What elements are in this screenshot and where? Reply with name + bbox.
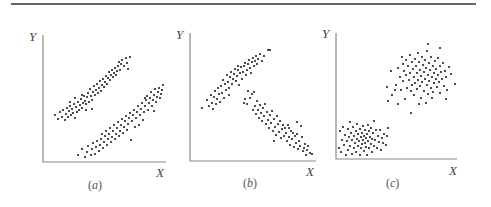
data-point: [94, 153, 96, 155]
data-point: [411, 61, 413, 63]
data-point: [114, 138, 116, 140]
data-point: [236, 75, 238, 77]
data-point: [375, 129, 377, 131]
data-point: [364, 142, 366, 144]
data-point: [343, 144, 345, 146]
data-point: [445, 76, 447, 78]
data-point: [135, 117, 137, 119]
data-point: [254, 60, 256, 62]
data-point: [352, 126, 354, 128]
data-point: [229, 76, 231, 78]
axes-c: [336, 33, 457, 159]
data-point: [374, 139, 376, 141]
data-point: [125, 115, 127, 117]
data-point: [422, 64, 424, 66]
data-point: [87, 145, 89, 147]
data-point: [108, 133, 110, 135]
data-point: [118, 135, 120, 137]
data-point: [75, 106, 77, 108]
data-point: [371, 138, 373, 140]
data-point: [365, 146, 367, 148]
data-point: [116, 70, 118, 72]
data-point: [64, 119, 66, 121]
data-point: [365, 137, 367, 139]
data-point: [228, 87, 230, 89]
data-point: [426, 84, 428, 86]
data-point: [282, 124, 284, 126]
data-point: [345, 154, 347, 156]
data-point: [155, 101, 157, 103]
data-point: [242, 71, 244, 73]
data-point: [227, 81, 229, 83]
data-point: [425, 102, 427, 104]
scatter-points-b: [201, 49, 313, 156]
data-point: [395, 84, 397, 86]
data-point: [98, 150, 100, 152]
data-point: [362, 125, 364, 127]
data-point: [121, 118, 123, 120]
data-point: [366, 133, 368, 135]
data-point: [110, 141, 112, 143]
data-point: [277, 123, 279, 125]
data-point: [296, 133, 298, 135]
data-point: [103, 86, 105, 88]
data-point: [371, 151, 373, 153]
data-point: [413, 94, 415, 96]
data-point: [115, 133, 117, 135]
data-point: [418, 103, 420, 105]
scatter-points-c: [338, 43, 456, 156]
data-point: [255, 55, 257, 57]
data-point: [106, 83, 108, 85]
data-point: [450, 73, 452, 75]
data-point: [288, 127, 290, 129]
data-point: [112, 130, 114, 132]
data-point: [152, 99, 154, 101]
data-point: [386, 135, 388, 137]
data-point: [61, 116, 63, 118]
data-point: [454, 83, 456, 85]
data-point: [67, 116, 69, 118]
data-point: [433, 72, 435, 74]
data-point: [102, 78, 104, 80]
data-point: [161, 89, 163, 91]
data-point: [73, 103, 75, 105]
data-point: [438, 81, 440, 83]
data-point: [124, 120, 126, 122]
data-point: [256, 100, 258, 102]
data-point: [249, 67, 251, 69]
data-point: [92, 91, 94, 93]
data-point: [353, 135, 355, 137]
data-point: [360, 147, 362, 149]
data-point: [153, 110, 155, 112]
data-point: [430, 56, 432, 58]
data-point: [361, 143, 363, 145]
data-point: [93, 85, 95, 87]
data-point: [275, 134, 277, 136]
data-point: [292, 132, 294, 134]
data-point: [357, 145, 359, 147]
data-point: [265, 123, 267, 125]
data-point: [432, 91, 434, 93]
y-axis-label-b: Y: [176, 27, 185, 42]
data-point: [348, 136, 350, 138]
data-point: [270, 122, 272, 124]
data-point: [136, 111, 138, 113]
data-point: [303, 147, 305, 149]
data-point: [358, 140, 360, 142]
data-point: [77, 154, 79, 156]
data-point: [104, 81, 106, 83]
data-point: [81, 107, 83, 109]
caption-a: (a): [88, 178, 102, 192]
data-point: [373, 120, 375, 122]
data-point: [218, 93, 220, 95]
data-point: [435, 68, 437, 70]
data-point: [147, 109, 149, 111]
data-point: [288, 136, 290, 138]
data-point: [261, 60, 263, 62]
data-point: [257, 109, 259, 111]
data-point: [157, 91, 159, 93]
data-point: [424, 59, 426, 61]
data-point: [142, 119, 144, 121]
data-point: [368, 147, 370, 149]
data-point: [272, 130, 274, 132]
